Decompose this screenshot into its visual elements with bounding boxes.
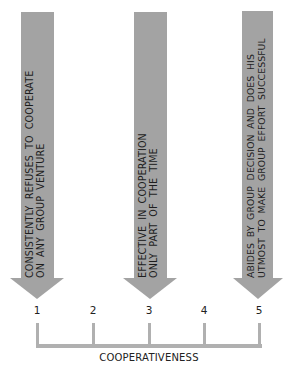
- anchor-arrow-5: ABIDES BY GROUP DECISION AND DOES HIS UT…: [0, 0, 289, 300]
- scale-tick: [92, 323, 95, 345]
- scale-tick: [36, 323, 39, 345]
- scale-number-2: 2: [86, 304, 100, 316]
- arrow-head: [233, 278, 283, 299]
- scale-tick: [203, 323, 206, 345]
- scale-baseline: [36, 344, 262, 348]
- anchor-label-line: ABIDES BY GROUP DECISION AND DOES HIS: [245, 38, 256, 278]
- scale-tick: [258, 323, 261, 345]
- scale-number-1: 1: [30, 304, 44, 316]
- scale-number-4: 4: [197, 304, 211, 316]
- anchor-label-5: ABIDES BY GROUP DECISION AND DOES HIS UT…: [245, 38, 267, 278]
- scale-tick: [148, 323, 151, 345]
- scale-number-5: 5: [252, 304, 266, 316]
- anchor-label-line: UTMOST TO MAKE GROUP EFFORT SUCCESSFUL: [256, 38, 267, 278]
- scale-number-3: 3: [142, 304, 156, 316]
- axis-label: COOPERATIVENESS: [0, 352, 289, 363]
